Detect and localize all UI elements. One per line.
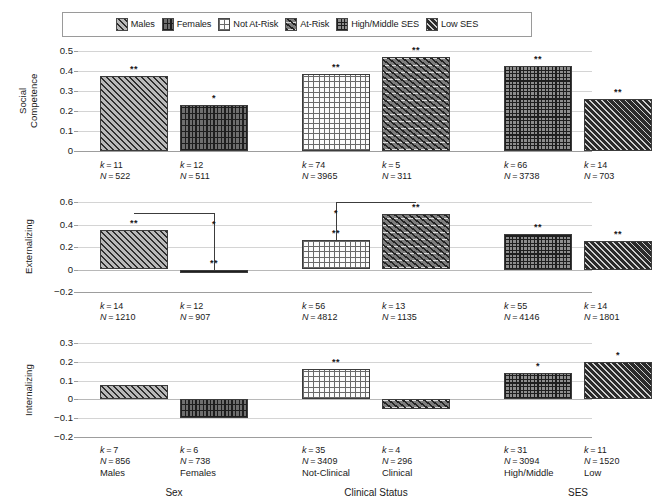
y-axis-tick-label: 0.3 <box>60 338 73 348</box>
bar-stats-label: k = 11N = 522 <box>100 160 130 182</box>
significance-marker: ** <box>412 46 420 55</box>
significance-connector-horizontal <box>134 213 214 214</box>
y-axis-tick-label: 0.5 <box>60 46 73 56</box>
bar <box>382 214 450 270</box>
y-axis-label: Internalizing <box>24 343 35 437</box>
legend-item-low-ses: Low SES <box>426 18 478 31</box>
significance-marker: ** <box>614 88 622 97</box>
gridline <box>78 399 592 400</box>
y-axis-tick-mark <box>74 225 78 226</box>
bar-stats-label: k = 66N = 3738 <box>504 160 539 182</box>
significance-connector-marker: * <box>212 220 216 229</box>
bar-stats-label: k = 74N = 3965 <box>302 160 337 182</box>
significance-marker: ** <box>332 63 340 72</box>
bar <box>382 57 450 151</box>
legend-item-label: At-Risk <box>300 20 329 29</box>
y-axis-tick-label: 0.2 <box>60 242 73 252</box>
bar <box>584 241 652 270</box>
legend-item-label: Males <box>131 20 155 29</box>
bar-stats-label: k = 7N = 856 <box>100 445 130 467</box>
y-axis-tick-mark <box>74 202 78 203</box>
significance-connector-marker: * <box>334 209 338 218</box>
significance-marker: ** <box>332 358 340 367</box>
legend-item-not-at-risk: Not At-Risk <box>218 18 278 31</box>
plot-area: −0.200.20.40.6************** <box>78 202 592 292</box>
gridline <box>78 225 592 226</box>
y-axis-tick-mark <box>74 71 78 72</box>
y-axis-tick-mark <box>74 362 78 363</box>
group-label: Sex <box>165 488 182 498</box>
bar <box>382 399 450 408</box>
gridline <box>78 418 592 419</box>
bar-stats-label: k = 5N = 311 <box>382 160 412 182</box>
gridline <box>78 343 592 344</box>
bar <box>180 270 248 273</box>
y-axis-tick-label: −0.2 <box>54 287 73 297</box>
y-axis-tick-label: 0 <box>68 395 73 405</box>
chart-legend: MalesFemalesNot At-RiskAt-RiskHigh/Middl… <box>62 12 532 37</box>
bar <box>504 373 572 400</box>
legend-item-at-risk: At-Risk <box>285 18 329 31</box>
y-axis-label: Social Competence <box>18 51 39 151</box>
category-label: Males <box>100 468 125 477</box>
legend-item-label: Not At-Risk <box>233 20 278 29</box>
legend-item-label: Low SES <box>441 20 478 29</box>
legend-swatch-icon <box>426 18 438 31</box>
legend-swatch-icon <box>336 18 348 31</box>
y-axis-tick-mark <box>74 270 78 271</box>
bar-stats-label: k = 6N = 738 <box>180 445 210 467</box>
y-axis-tick-mark <box>74 418 78 419</box>
bar-stats-label: k = 12N = 511 <box>180 160 210 182</box>
category-label: Clinical <box>382 468 412 477</box>
panel-internalizing: −0.2−0.100.10.20.3****Internalizingk = 7… <box>0 337 605 500</box>
y-axis-tick-label: 0.4 <box>60 220 73 230</box>
bar-stats-label: k = 55N = 4146 <box>504 301 539 323</box>
y-axis-tick-label: 0.2 <box>60 106 73 116</box>
significance-marker: ** <box>534 223 542 232</box>
bar <box>504 66 572 151</box>
bar-stats-label: k = 31N = 3094 <box>504 445 539 467</box>
bar <box>584 99 652 151</box>
y-axis-tick-mark <box>74 381 78 382</box>
bar <box>302 74 370 151</box>
bar <box>100 385 168 399</box>
y-axis-tick-label: −0.1 <box>54 413 73 423</box>
legend-swatch-icon <box>162 18 174 31</box>
legend-swatch-icon <box>218 18 230 31</box>
significance-marker: ** <box>614 230 622 239</box>
legend-item-males: Males <box>116 18 155 31</box>
x-axis-line <box>78 437 592 438</box>
y-axis-tick-mark <box>74 51 78 52</box>
legend-item-label: High/Middle SES <box>351 20 419 29</box>
significance-marker: ** <box>130 65 138 74</box>
x-axis-line <box>78 151 592 152</box>
bar-stats-label: k = 4N = 296 <box>382 445 412 467</box>
gridline <box>78 51 592 52</box>
y-axis-tick-label: 0.6 <box>60 197 73 207</box>
legend-item-label: Females <box>177 20 212 29</box>
y-axis-tick-mark <box>74 343 78 344</box>
significance-marker: ** <box>534 55 542 64</box>
bar <box>504 234 572 270</box>
panel-social-competence: 00.10.20.30.40.5***********Social Compet… <box>0 45 605 190</box>
category-label: Not-Clinical <box>302 468 350 477</box>
y-axis-tick-label: 0.1 <box>60 126 73 136</box>
bar <box>100 230 168 270</box>
panel-externalizing: −0.200.20.40.6**************Externalizin… <box>0 196 605 341</box>
y-axis-tick-mark <box>74 111 78 112</box>
bar-stats-label: k = 14N = 1210 <box>100 301 135 323</box>
group-label: Clinical Status <box>344 488 407 498</box>
significance-marker: * <box>536 362 540 371</box>
y-axis-tick-mark <box>74 131 78 132</box>
bar <box>584 362 652 400</box>
y-axis-label: Externalizing <box>24 202 35 292</box>
bar <box>302 369 370 399</box>
bar <box>302 240 370 270</box>
bar-stats-label: k = 13N = 1135 <box>382 301 417 323</box>
significance-marker: * <box>212 94 216 103</box>
y-axis-tick-mark <box>74 247 78 248</box>
bar-stats-label: k = 35N = 3409 <box>302 445 337 467</box>
plot-area: 00.10.20.30.40.5*********** <box>78 51 592 151</box>
gridline <box>78 270 592 271</box>
